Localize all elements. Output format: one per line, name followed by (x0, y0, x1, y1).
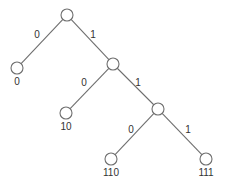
node-circle-n111 (200, 153, 212, 165)
node-circle-n11 (152, 103, 164, 115)
edge-bit-label: 1 (185, 124, 191, 135)
edge-n11-n110 (115, 113, 154, 154)
node-circle-root (61, 9, 73, 21)
node-circle-n0 (11, 62, 23, 74)
leaf-code-label: 0 (14, 76, 20, 87)
edge-bit-label: 0 (34, 29, 40, 40)
edge-n1-n10 (70, 68, 109, 108)
edge-bit-label: 0 (81, 77, 87, 88)
leaf-code-label: 10 (60, 121, 72, 132)
edge-bit-label: 1 (90, 29, 96, 40)
leaf-code-label: 110 (103, 167, 119, 178)
node-circle-n1 (107, 58, 119, 70)
leaf-code-label: 111 (198, 167, 214, 178)
node-circle-n10 (60, 107, 72, 119)
binary-tree-diagram: 010101 010110111 (0, 0, 230, 189)
tree-edges (21, 19, 202, 154)
edge-bit-label: 0 (128, 124, 134, 135)
tree-nodes (11, 9, 212, 165)
edge-n11-n111 (162, 113, 202, 154)
edge-root-n0 (21, 19, 63, 63)
node-circle-n110 (105, 153, 117, 165)
edge-bit-label: 1 (135, 77, 141, 88)
